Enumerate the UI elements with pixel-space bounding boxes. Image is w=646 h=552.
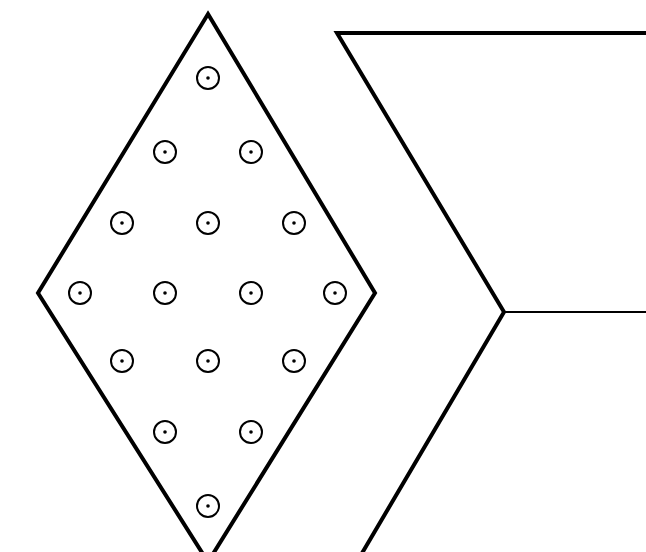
center-dot-icon xyxy=(120,221,124,225)
center-dot-icon xyxy=(206,221,210,225)
center-dot-icon xyxy=(163,430,167,434)
background xyxy=(0,0,646,552)
center-dot-icon xyxy=(206,76,210,80)
center-dot-icon xyxy=(120,359,124,363)
center-dot-icon xyxy=(206,504,210,508)
center-dot-icon xyxy=(163,150,167,154)
center-dot-icon xyxy=(249,430,253,434)
center-dot-icon xyxy=(163,291,167,295)
diagram-canvas xyxy=(0,0,646,552)
center-dot-icon xyxy=(249,291,253,295)
center-dot-icon xyxy=(292,359,296,363)
center-dot-icon xyxy=(249,150,253,154)
center-dot-icon xyxy=(78,291,82,295)
center-dot-icon xyxy=(333,291,337,295)
center-dot-icon xyxy=(292,221,296,225)
center-dot-icon xyxy=(206,359,210,363)
